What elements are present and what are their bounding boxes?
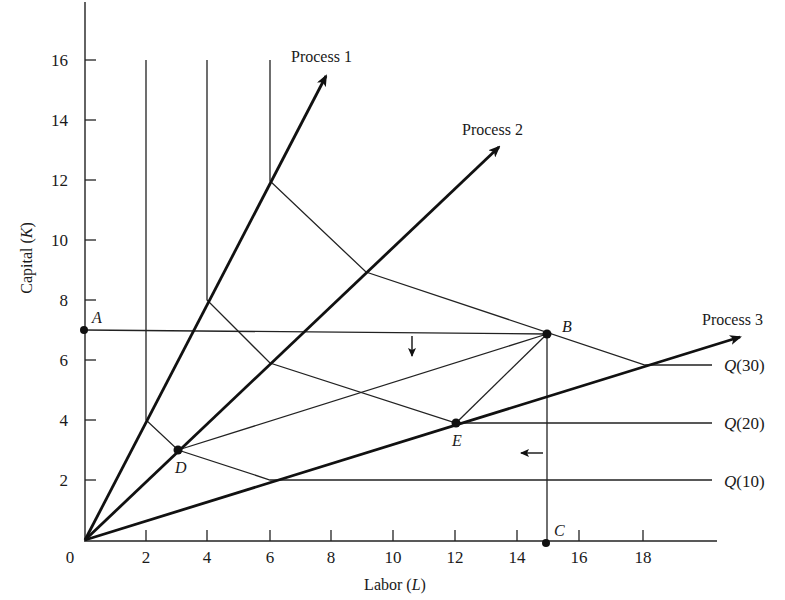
point-labels: A B C D E: [91, 309, 572, 539]
x-tick-16: 16: [571, 548, 588, 567]
point-A: [80, 326, 88, 334]
y-tick-labels: 2 4 6 8 10 12 14 16: [51, 51, 69, 490]
q30-label: Q(30): [724, 356, 765, 375]
x-tick-12: 12: [447, 548, 464, 567]
x-tick-labels: 0 2 4 6 8 10 12 14 16 18: [66, 548, 652, 567]
y-tick-2: 2: [60, 471, 69, 490]
isoquant-q10: [146, 60, 712, 480]
label-C: C: [554, 522, 565, 539]
q10-label: Q(10): [724, 472, 765, 491]
y-tick-4: 4: [60, 411, 69, 430]
process-2-label: Process 2: [462, 121, 523, 138]
process-1-ray: [85, 76, 326, 540]
x-tick-10: 10: [385, 548, 402, 567]
y-tick-16: 16: [51, 51, 68, 70]
process-labels: Process 1 Process 2 Process 3: [291, 48, 763, 328]
isoquant-q30: [270, 60, 712, 365]
origin-label: 0: [66, 548, 75, 567]
y-tick-12: 12: [51, 171, 68, 190]
process-3-ray: [85, 337, 740, 540]
label-E: E: [451, 432, 462, 449]
q20-label: Q(20): [724, 414, 765, 433]
x-tick-6: 6: [266, 548, 275, 567]
line-A-B: [84, 330, 547, 334]
label-D: D: [174, 459, 187, 476]
construction-lines: [84, 330, 547, 543]
process-2-ray: [85, 147, 499, 540]
x-tick-14: 14: [509, 548, 527, 567]
diagram-canvas: 2 4 6 8 10 12 14 16 0 2 4 6 8 10 12 14 1…: [0, 0, 785, 600]
line-D-B: [178, 334, 547, 450]
y-tick-14: 14: [51, 111, 69, 130]
y-tick-8: 8: [60, 291, 69, 310]
process-1-label: Process 1: [291, 48, 352, 65]
label-B: B: [562, 318, 572, 335]
x-ticks: [146, 530, 643, 541]
isoquant-diagram: 2 4 6 8 10 12 14 16 0 2 4 6 8 10 12 14 1…: [0, 0, 785, 600]
x-tick-18: 18: [635, 548, 652, 567]
points: [80, 326, 552, 547]
isoquant-labels: Q(30) Q(20) Q(10): [724, 356, 765, 491]
point-B: [543, 330, 552, 339]
y-ticks: [85, 60, 96, 480]
point-D: [174, 446, 183, 455]
y-tick-6: 6: [60, 351, 69, 370]
process-3-label: Process 3: [702, 311, 763, 328]
y-axis-label: Capital (K): [18, 222, 36, 294]
x-tick-2: 2: [142, 548, 151, 567]
x-tick-8: 8: [327, 548, 336, 567]
direction-arrows: [412, 336, 543, 453]
x-axis-label: Labor (L): [364, 576, 426, 594]
isoquants: [146, 60, 712, 480]
point-C: [542, 539, 550, 547]
x-tick-4: 4: [203, 548, 212, 567]
point-E: [452, 419, 461, 428]
y-tick-10: 10: [51, 231, 68, 250]
label-A: A: [91, 309, 102, 326]
